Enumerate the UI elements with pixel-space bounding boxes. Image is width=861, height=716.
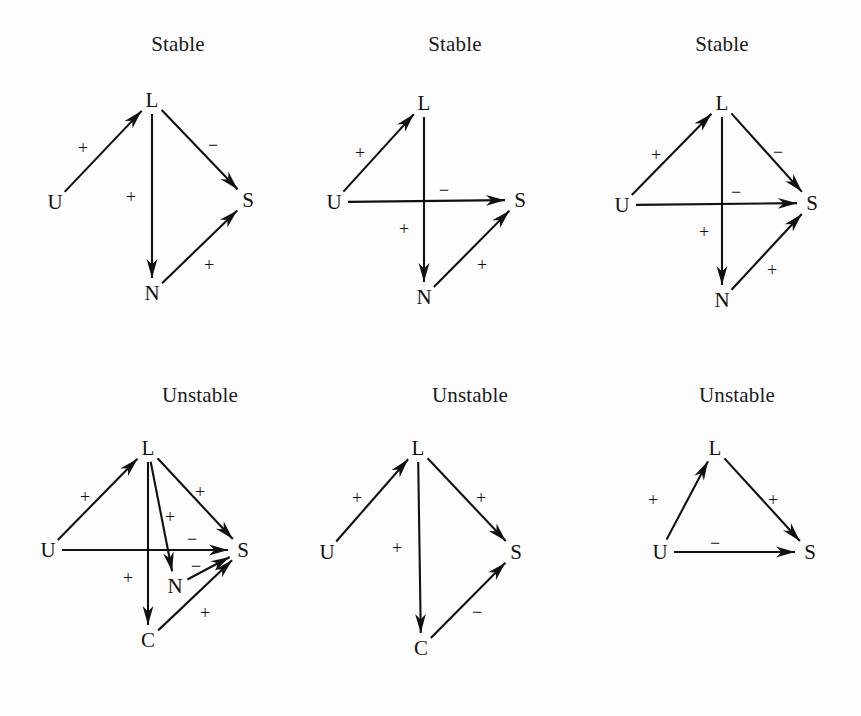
edge-u-to-l <box>667 461 708 539</box>
edge-sign-label: + <box>352 489 362 507</box>
edge-layer <box>0 0 861 716</box>
panel-title: Stable <box>695 32 749 57</box>
edge-sign-label: + <box>195 483 205 501</box>
panel-title: Unstable <box>432 383 508 408</box>
node-label-c: C <box>414 636 428 661</box>
panel-title: Unstable <box>162 383 238 408</box>
node-label-u: U <box>614 193 629 218</box>
edge-sign-label: − <box>439 181 449 199</box>
edge-sign-label: + <box>699 223 709 241</box>
edge-c-to-s <box>431 563 506 638</box>
edge-u-to-l <box>58 459 138 540</box>
edge-sign-label: + <box>200 604 210 622</box>
node-label-l: L <box>412 436 425 461</box>
edge-l-to-s <box>724 458 799 541</box>
panel-title: Stable <box>151 32 205 57</box>
edge-sign-label: − <box>710 534 720 552</box>
node-label-l: L <box>146 88 159 113</box>
edge-u-to-l <box>336 459 408 541</box>
edge-n-to-s <box>162 210 237 283</box>
signed-digraph-figure: StableStableStableUnstableUnstableUnstab… <box>0 0 861 716</box>
node-label-s: S <box>242 188 254 213</box>
node-label-s: S <box>514 188 526 213</box>
node-label-l: L <box>142 436 155 461</box>
edge-l-to-n <box>419 117 430 282</box>
edge-u-to-s <box>674 547 795 558</box>
edge-sign-label: + <box>767 261 777 279</box>
edge-sign-label: + <box>477 256 487 274</box>
edge-sign-label: + <box>651 146 661 164</box>
edge-sign-label: + <box>204 256 214 274</box>
edge-sign-label: + <box>768 491 778 509</box>
node-label-u: U <box>326 190 341 215</box>
edge-l-to-n <box>717 117 728 285</box>
panel-title: Unstable <box>699 383 775 408</box>
node-label-s: S <box>804 540 816 565</box>
edge-l-to-s <box>731 113 802 191</box>
edge-l-to-n <box>147 114 158 278</box>
edge-sign-label: + <box>399 220 409 238</box>
node-label-s: S <box>806 191 818 216</box>
node-label-c: C <box>141 628 155 653</box>
edge-sign-label: + <box>80 488 90 506</box>
edge-sign-label: + <box>126 188 136 206</box>
edge-u-to-s <box>62 545 228 556</box>
edge-sign-label: − <box>773 143 783 161</box>
node-label-u: U <box>652 540 667 565</box>
node-label-n: N <box>416 285 431 310</box>
edge-sign-label: + <box>648 491 658 509</box>
edge-sign-label: − <box>187 530 197 548</box>
edge-sign-label: + <box>165 508 175 526</box>
edge-sign-label: + <box>78 139 88 157</box>
edge-u-to-s <box>348 195 505 206</box>
edge-sign-label: + <box>123 569 133 587</box>
node-label-n: N <box>144 281 159 306</box>
edge-n-to-s <box>434 211 510 287</box>
node-label-n: N <box>714 288 729 313</box>
edge-l-to-c <box>415 462 426 633</box>
edge-sign-label: − <box>731 183 741 201</box>
edge-sign-label: + <box>355 144 365 162</box>
node-label-l: L <box>418 91 431 116</box>
node-label-u: U <box>47 190 62 215</box>
node-label-l: L <box>709 436 722 461</box>
edge-l-to-s <box>428 458 506 541</box>
edge-u-to-s <box>636 198 797 209</box>
panel-title: Stable <box>428 32 482 57</box>
edge-sign-label: − <box>191 557 201 575</box>
edge-sign-label: − <box>208 136 218 154</box>
edge-l-to-c <box>143 462 154 625</box>
edge-sign-label: − <box>472 603 482 621</box>
node-label-u: U <box>319 540 334 565</box>
edge-l-to-s <box>162 110 238 189</box>
edge-sign-label: + <box>392 539 402 557</box>
edge-sign-label: + <box>476 489 486 507</box>
edge-u-to-l <box>632 114 712 195</box>
node-label-s: S <box>510 540 522 565</box>
arrowhead <box>694 461 708 480</box>
node-label-l: L <box>716 91 729 116</box>
node-label-n: N <box>167 574 182 599</box>
edge-u-to-l <box>65 111 142 192</box>
node-label-u: U <box>40 538 55 563</box>
node-label-s: S <box>237 538 249 563</box>
